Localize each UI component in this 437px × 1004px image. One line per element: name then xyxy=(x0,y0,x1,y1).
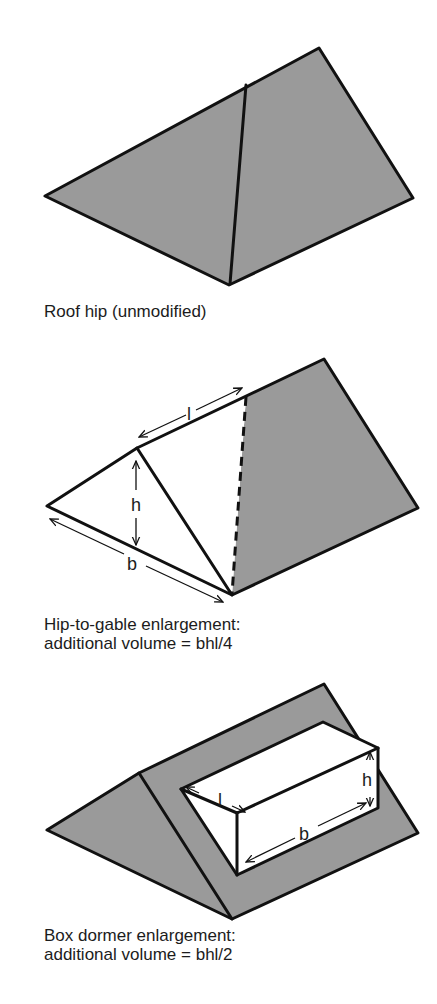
caption-box-dormer: Box dormer enlargement: additional volum… xyxy=(44,926,236,964)
caption-line: additional volume = bhl/4 xyxy=(44,634,241,653)
l-label: l xyxy=(218,790,222,810)
new-gable-area xyxy=(47,397,246,595)
b-label: b xyxy=(299,824,309,844)
roof-enlargement-diagrams: l h b l h b xyxy=(0,0,437,1004)
remaining-roof-slope xyxy=(232,359,418,595)
caption-line: additional volume = bhl/2 xyxy=(44,945,236,964)
h-label: h xyxy=(131,495,141,515)
caption-line: Hip-to-gable enlargement: xyxy=(44,615,241,634)
l-label: l xyxy=(187,404,191,424)
caption-line: Box dormer enlargement: xyxy=(44,926,236,945)
caption-hip-to-gable: Hip-to-gable enlargement: additional vol… xyxy=(44,615,241,653)
roof-hip-figure xyxy=(45,48,413,285)
caption-line: Roof hip (unmodified) xyxy=(44,302,207,321)
box-dormer-figure: l h b xyxy=(47,684,418,919)
b-label: b xyxy=(127,554,137,574)
caption-roof-hip: Roof hip (unmodified) xyxy=(44,302,207,321)
hip-to-gable-figure: l h b xyxy=(47,359,418,602)
h-label: h xyxy=(362,770,372,790)
